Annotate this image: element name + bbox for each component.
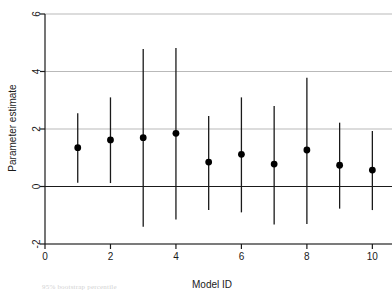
y-tick-label: 2 [31, 126, 42, 132]
x-tick-label: 4 [173, 251, 179, 262]
chart-background [0, 0, 392, 292]
data-point [336, 162, 343, 169]
data-point [271, 161, 278, 168]
data-point [205, 159, 212, 166]
data-point [140, 134, 147, 141]
parameter-estimate-chart: -20246 0246810 Parameter estimate Model … [0, 0, 392, 292]
data-point [369, 167, 376, 174]
data-point [303, 147, 310, 154]
caption-fragment: 95% bootstrap percentile [42, 283, 117, 291]
y-axis-title: Parameter estimate [7, 84, 18, 172]
data-point [238, 151, 245, 158]
y-tick-label: -2 [31, 239, 42, 248]
x-axis-title: Model ID [192, 279, 232, 290]
x-tick-label: 6 [239, 251, 245, 262]
x-tick-label: 10 [367, 251, 379, 262]
x-tick-label: 2 [108, 251, 114, 262]
x-tick-label: 0 [42, 251, 48, 262]
data-point [74, 144, 81, 151]
y-tick-label: 4 [31, 68, 42, 74]
data-point [173, 130, 180, 137]
x-tick-label: 8 [304, 251, 310, 262]
data-point [107, 137, 114, 144]
y-tick-label: 0 [31, 183, 42, 189]
y-tick-label: 6 [31, 11, 42, 17]
